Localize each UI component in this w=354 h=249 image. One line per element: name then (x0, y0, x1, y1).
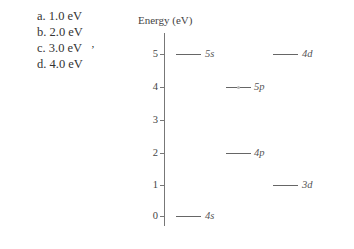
tick-label-3: 3 (150, 114, 158, 126)
level-label-4p: 4p (254, 147, 265, 159)
energy-level-diagram: Energy (eV) 5 4 3 2 1 0 5s 4d 5p 4p 3d 4… (0, 0, 354, 249)
tick-3 (160, 120, 165, 121)
tick-label-2: 2 (150, 147, 158, 159)
level-marker-dot (237, 86, 240, 89)
tick-1 (160, 185, 165, 186)
tick-2 (160, 153, 165, 154)
level-label-4d: 4d (302, 48, 313, 60)
level-4p (226, 153, 251, 154)
level-label-3d: 3d (302, 179, 313, 191)
level-5s (176, 54, 201, 55)
tick-5 (160, 54, 165, 55)
energy-axis (164, 33, 165, 226)
tick-4 (160, 87, 165, 88)
level-5p (226, 87, 251, 88)
tick-label-4: 4 (150, 81, 158, 93)
tick-0 (160, 216, 165, 217)
level-4d (273, 54, 298, 55)
level-label-5p: 5p (254, 81, 265, 93)
level-label-4s: 4s (205, 210, 214, 222)
tick-label-0: 0 (150, 210, 158, 222)
level-4s (176, 216, 201, 217)
axis-title: Energy (eV) (138, 14, 192, 26)
level-label-5s: 5s (205, 48, 214, 60)
tick-label-5: 5 (150, 48, 158, 60)
level-3d (273, 185, 298, 186)
tick-label-1: 1 (150, 179, 158, 191)
